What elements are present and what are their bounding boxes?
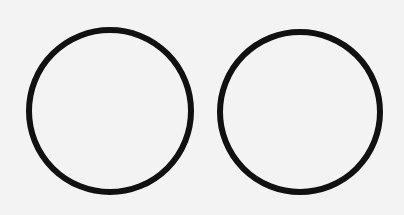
left-circle <box>29 30 191 192</box>
circles-drawing <box>0 0 404 215</box>
diagram-canvas <box>0 0 404 215</box>
right-circle <box>220 32 380 192</box>
